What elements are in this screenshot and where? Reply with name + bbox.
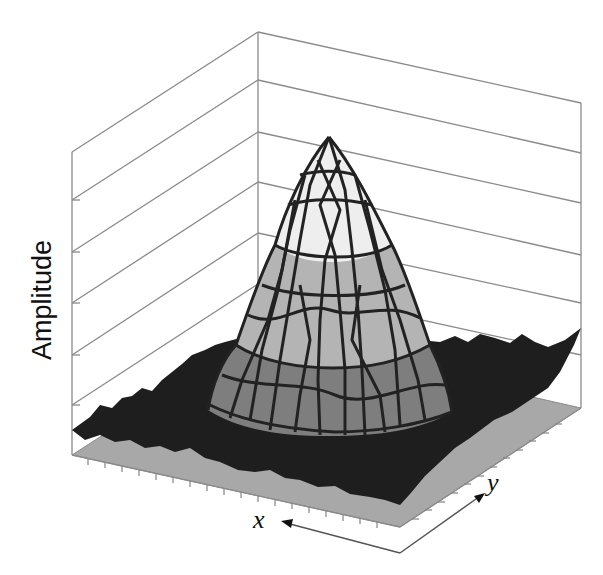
x-arrow-head <box>281 519 293 528</box>
z-axis-label: Amplitude <box>27 240 58 360</box>
surface-plot <box>0 0 603 575</box>
x-axis-label: x <box>253 507 265 533</box>
y-arrow-head <box>474 493 485 503</box>
y-axis-label: y <box>487 470 499 496</box>
